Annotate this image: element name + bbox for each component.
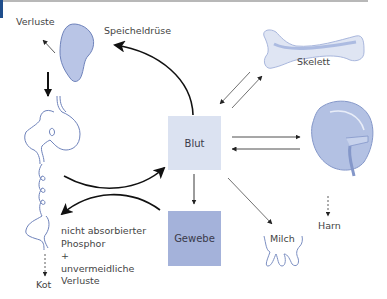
label-harn: Harn [318, 220, 341, 232]
label-skelett: Skelett [297, 56, 330, 68]
kidney-icon [312, 101, 373, 176]
node-gewebe-label: Gewebe [174, 233, 215, 244]
arrow-blood-to-milk [228, 178, 272, 224]
label-verluste-top: Verluste [16, 16, 55, 28]
arrow-skeleton-to-blood [220, 72, 250, 104]
arrow-gland-to-losses [43, 40, 55, 53]
arrow-blood-to-gut [62, 195, 160, 214]
fecal-line-1: nicht absorbierter [61, 225, 146, 238]
arrow-blood-to-gland [115, 45, 193, 115]
label-speicheldruese: Speicheldrüse [104, 25, 171, 37]
label-milch: Milch [270, 233, 295, 245]
arrow-blood-to-skeleton [232, 76, 262, 108]
label-kot: Kot [36, 279, 51, 291]
fecal-line-2: Phosphor [61, 238, 146, 251]
salivary-gland-icon [60, 24, 94, 81]
arrow-gut-to-blood [64, 168, 164, 188]
fecal-line-4: unvermeidliche [61, 263, 146, 276]
node-blut: Blut [168, 116, 221, 170]
node-blut-label: Blut [185, 138, 205, 149]
node-gewebe: Gewebe [168, 211, 221, 266]
fecal-line-5: Verluste [61, 275, 146, 288]
label-fecal-phosphorus: nicht absorbierter Phosphor + unvermeidl… [61, 225, 146, 288]
fecal-line-3: + [61, 250, 146, 263]
